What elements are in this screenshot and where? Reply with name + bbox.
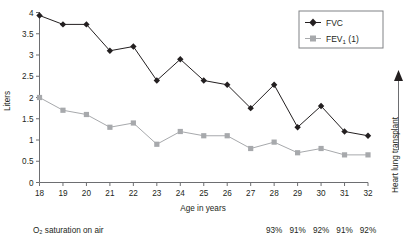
data-point-marker [60,108,65,113]
data-point-marker [37,95,42,100]
data-point-marker [248,146,253,151]
o2-value: 91% [289,226,305,235]
y-tick-label: 0.5 [22,157,34,166]
x-tick-label: 29 [293,189,303,198]
data-point-marker [365,152,370,157]
x-tick-label: 24 [176,189,186,198]
y-tick-label: 3.5 [22,30,34,39]
o2-value: 93% [266,226,282,235]
legend-label-fvc: FVC [326,18,343,28]
spirometry-line-chart: 00.511.522.533.54 1819202122232425262728… [0,0,410,251]
y-axis-title: Liters [3,91,12,111]
data-point-marker [295,150,300,155]
data-point-marker [365,133,371,139]
y-tick-label: 1 [29,136,34,145]
y-tick-label: 4 [29,9,34,18]
x-tick-label: 18 [35,189,45,198]
y-tick-label: 0 [29,179,34,188]
x-tick-label: 25 [199,189,209,198]
data-point-marker [131,120,136,125]
o2-saturation-label: O₂ saturation on air [33,226,104,235]
data-point-marker [84,112,89,117]
data-point-marker [36,12,42,18]
data-point-marker [130,43,136,49]
o2-saturation-values: 93%91%92%91%92% [266,226,376,235]
y-tick-label: 2 [29,94,34,103]
x-axis-title: Age in years [180,204,226,213]
legend[interactable]: FVC FEV1 (1) [299,11,383,48]
data-point-marker [154,142,159,147]
legend-label-fev1: FEV1 (1) [326,34,359,45]
transplant-label: Heart lung transplant [391,116,400,193]
transplant-arrow-head [394,70,403,81]
data-point-marker [318,146,323,151]
x-tick-label: 32 [363,189,373,198]
data-point-marker [60,21,66,27]
x-tick-label: 20 [82,189,92,198]
legend-label-fev1-tail: (1) [346,34,359,44]
x-tick-label: 23 [152,189,162,198]
data-point-marker [342,152,347,157]
data-point-marker [178,129,183,134]
square-marker-icon [310,36,316,42]
x-tick-label: 26 [223,189,233,198]
x-axis-ticks: 181920212223242526272829303132 [35,183,373,198]
data-point-marker [201,133,206,138]
data-point-marker [272,140,277,145]
o2-value: 92% [313,226,329,235]
data-point-marker [107,125,112,130]
data-point-marker [225,133,230,138]
y-tick-label: 1.5 [22,115,34,124]
y-tick-label: 2.5 [22,72,34,81]
x-tick-label: 19 [58,189,68,198]
x-tick-label: 30 [317,189,327,198]
o2-value: 91% [336,226,352,235]
legend-label-fev1-main: FEV [326,34,343,44]
y-axis-ticks: 00.511.522.533.54 [22,9,39,188]
y-tick-label: 3 [29,51,34,60]
x-tick-label: 21 [105,189,115,198]
chart-container: 00.511.522.533.54 1819202122232425262728… [0,0,410,251]
x-tick-label: 27 [246,189,256,198]
o2-value: 92% [360,226,376,235]
x-tick-label: 31 [340,189,350,198]
x-tick-label: 28 [270,189,280,198]
heart-lung-transplant-annotation: Heart lung transplant [391,70,403,193]
x-tick-label: 22 [129,189,139,198]
